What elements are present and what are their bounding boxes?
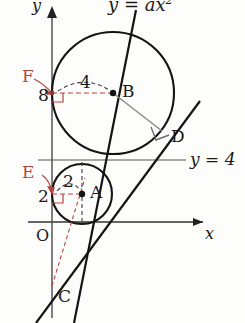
line-through-A-and-B bbox=[74, 10, 136, 323]
geometry-figure: y = ax2 y x O y = 4 B A C D E F 4 8 2 2 bbox=[0, 0, 245, 323]
measure-label-radius-large: 4 bbox=[80, 74, 91, 91]
y-axis-label: y bbox=[32, 0, 41, 14]
measure-label-y-of-A: 2 bbox=[38, 188, 49, 205]
horizontal-line-label: y = 4 bbox=[190, 151, 235, 168]
point-label-A: A bbox=[90, 184, 102, 201]
measure-label-y-of-B: 8 bbox=[38, 87, 49, 104]
point-dot-F bbox=[50, 91, 55, 96]
point-dot-A bbox=[79, 191, 85, 197]
radius-segment-BD bbox=[113, 93, 162, 131]
origin-label: O bbox=[36, 228, 49, 244]
point-label-F: F bbox=[22, 68, 34, 85]
point-label-C: C bbox=[58, 288, 71, 305]
point-label-B: B bbox=[122, 83, 135, 100]
curve-equation-label: y = ax2 bbox=[108, 0, 173, 14]
x-axis-label: x bbox=[205, 226, 214, 242]
point-dot-B bbox=[110, 90, 116, 96]
y-axis-arrowhead bbox=[47, 6, 57, 18]
x-axis-arrowhead bbox=[193, 218, 203, 226]
point-label-E: E bbox=[22, 164, 34, 181]
measure-label-radius-small: 2 bbox=[63, 173, 74, 190]
curve-equation-text: y = ax bbox=[108, 0, 166, 15]
curve-equation-exponent: 2 bbox=[166, 0, 173, 7]
point-label-D: D bbox=[171, 128, 185, 145]
